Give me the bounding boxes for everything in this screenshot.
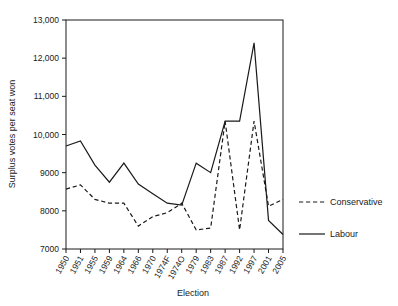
x-tick-label: 1987	[212, 254, 230, 276]
y-tick-label: 7000	[40, 244, 59, 254]
y-tick-label: 13,000	[33, 15, 59, 25]
series-layer	[66, 43, 283, 235]
x-tick-label: 1951	[68, 254, 86, 276]
x-axis-title: Election	[177, 288, 209, 298]
legend-label-labour: Labour	[330, 229, 358, 239]
x-tick-label: 2005	[270, 254, 288, 276]
x-tick-label: 1964	[111, 254, 129, 276]
x-tick-label: 1997	[241, 254, 259, 276]
x-tick-label: 1992	[227, 254, 245, 276]
x-axis-ticks: 19501951195519591964196619701974F1974O19…	[53, 249, 288, 281]
legend-label-conservative: Conservative	[330, 197, 383, 207]
x-tick-label: 1955	[82, 254, 100, 276]
y-tick-label: 9000	[40, 168, 59, 178]
line-chart-figure: 70008000900010,00011,00012,00013,000 195…	[0, 0, 398, 306]
plot-frame	[66, 20, 283, 249]
y-axis-ticks: 70008000900010,00011,00012,00013,000	[33, 15, 66, 254]
x-tick-label: 1983	[198, 254, 216, 276]
series-line-labour	[66, 43, 283, 235]
y-tick-label: 10,000	[33, 130, 59, 140]
y-axis-title: Surplus votes per seat won	[7, 80, 17, 189]
x-tick-label: 2001	[256, 254, 274, 276]
chart-container: 70008000900010,00011,00012,00013,000 195…	[0, 0, 398, 306]
chart-legend: ConservativeLabour	[299, 197, 383, 239]
x-tick-label: 1979	[183, 254, 201, 276]
x-tick-label: 1966	[125, 254, 143, 276]
series-line-conservative	[66, 121, 283, 230]
y-tick-label: 11,000	[34, 91, 60, 101]
x-tick-label: 1950	[53, 254, 71, 276]
plot-border	[66, 20, 283, 249]
y-tick-label: 8000	[40, 206, 59, 216]
x-tick-label: 1959	[97, 254, 115, 276]
y-tick-label: 12,000	[33, 53, 59, 63]
